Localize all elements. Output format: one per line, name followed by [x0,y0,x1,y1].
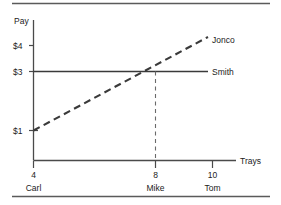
x-tick-name-tom: Tom [204,183,220,193]
y-tick-label-3: $3 [13,67,23,77]
series-label-smith: Smith [212,67,234,77]
x-tick-label-8: 8 [153,170,158,180]
x-tick-name-carl: Carl [26,183,42,193]
pay-vs-trays-line-chart: Pay Trays $4 $3 $1 4 8 10 Carl Mike Tom … [0,0,281,205]
series-label-jonco: Jonco [212,35,235,45]
x-tick-label-4: 4 [31,170,36,180]
y-tick-label-1: $1 [13,126,23,136]
y-axis-title: Pay [14,16,29,26]
x-tick-label-10: 10 [208,170,218,180]
chart-figure: Pay Trays $4 $3 $1 4 8 10 Carl Mike Tom … [0,0,281,205]
x-axis-title: Trays [240,156,261,166]
y-tick-label-4: $4 [13,41,23,51]
series-line-jonco [34,37,209,131]
x-tick-name-mike: Mike [147,183,165,193]
